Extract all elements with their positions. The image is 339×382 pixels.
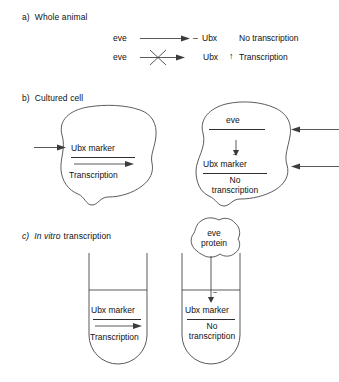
eve-protein-line2: protein — [201, 238, 227, 248]
eve-protein-label: eve protein — [186, 229, 242, 248]
tube-right-marker-rule — [187, 319, 235, 320]
tube-right-marker-label: Ubx marker — [185, 305, 229, 315]
tube-right-repression-sign: – — [213, 288, 217, 295]
tube-right-result-line1: No — [207, 321, 218, 331]
test-tube-right — [0, 0, 339, 382]
tube-right-result: No transcription — [176, 322, 248, 341]
tube-right-result-line2: transcription — [189, 331, 235, 341]
eve-protein-line1: eve — [207, 228, 221, 238]
